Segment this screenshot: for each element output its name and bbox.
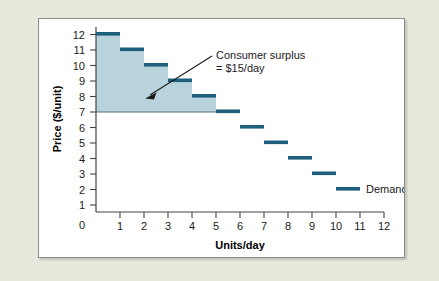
consumer-surplus-annotation-line1: Consumer surplus [216, 49, 306, 61]
x-tick-label-11: 11 [354, 220, 365, 232]
x-tick-label-4: 4 [189, 220, 195, 232]
y-tick-label-10: 10 [73, 60, 85, 72]
x-axis-title: Units/day [215, 239, 265, 251]
demand-step-bar [288, 156, 312, 160]
x-tick-label-6: 6 [237, 220, 243, 232]
y-tick-label-8: 8 [79, 91, 85, 103]
x-axis-ticks [120, 212, 384, 218]
x-tick-label-2: 2 [141, 220, 147, 232]
demand-step-bar [120, 48, 144, 52]
demand-step-bar [192, 94, 216, 98]
demand-step-bar [216, 110, 240, 114]
x-tick-label-12: 12 [378, 220, 390, 232]
demand-step-bar [96, 32, 120, 36]
demand-step-bar [312, 172, 336, 176]
y-axis-ticks [90, 35, 96, 206]
y-tick-label-9: 9 [79, 75, 85, 87]
demand-consumer-surplus-chart: 12 11 10 9 8 7 6 5 4 3 2 1 0 1 2 3 [39, 19, 404, 257]
y-tick-label-3: 3 [79, 168, 85, 180]
x-tick-label-5: 5 [213, 220, 219, 232]
demand-step-bar [336, 187, 360, 191]
y-axis-title: Price ($/unit) [51, 85, 63, 152]
demand-step-bar [144, 63, 168, 67]
y-tick-label-11: 11 [74, 44, 85, 56]
x-tick-label-9: 9 [309, 220, 315, 232]
origin-label: 0 [79, 219, 85, 231]
y-tick-label-6: 6 [79, 122, 85, 134]
demand-curve-label: Demand [366, 183, 404, 195]
consumer-surplus-annotation-line2: = $15/day [216, 62, 265, 74]
y-tick-label-5: 5 [79, 137, 85, 149]
x-tick-label-3: 3 [165, 220, 171, 232]
y-tick-label-1: 1 [79, 199, 85, 211]
y-tick-label-12: 12 [73, 29, 85, 41]
y-tick-label-7: 7 [79, 106, 85, 118]
x-tick-label-1: 1 [117, 220, 123, 232]
consumer-surplus-shaded-region [96, 35, 216, 113]
x-tick-label-10: 10 [330, 220, 342, 232]
demand-step-bar [240, 125, 264, 129]
demand-step-bar [264, 141, 288, 145]
y-tick-label-4: 4 [79, 153, 85, 165]
x-tick-label-8: 8 [285, 220, 291, 232]
x-tick-label-7: 7 [261, 220, 267, 232]
figure-panel: 12 11 10 9 8 7 6 5 4 3 2 1 0 1 2 3 [38, 18, 405, 258]
y-tick-label-2: 2 [79, 184, 85, 196]
